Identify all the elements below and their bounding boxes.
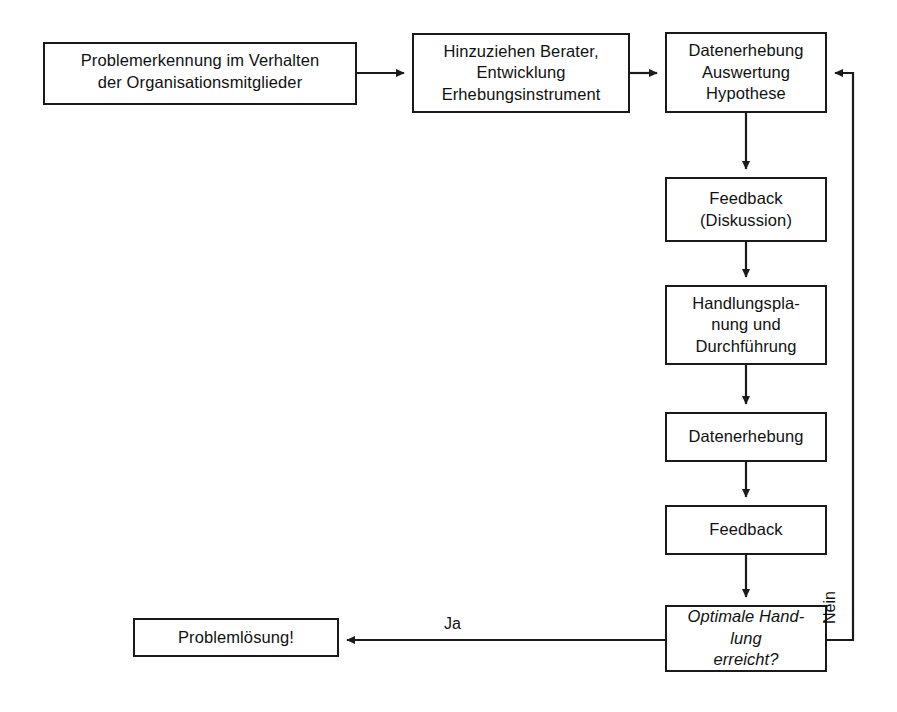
flowchart-canvas: Problemerkennung im Verhalten der Organi… bbox=[0, 0, 897, 712]
node-handlungsplanung-durchfuehrung-label: Handlungspla- nung und Durchführung bbox=[667, 293, 825, 357]
node-hinzuziehen-berater[interactable]: Hinzuziehen Berater, Entwicklung Erhebun… bbox=[412, 33, 630, 113]
node-datenerhebung[interactable]: Datenerhebung bbox=[665, 412, 827, 462]
node-handlungsplanung-durchfuehrung[interactable]: Handlungspla- nung und Durchführung bbox=[665, 285, 827, 365]
node-feedback-diskussion[interactable]: Feedback (Diskussion) bbox=[665, 177, 827, 242]
node-datenerhebung-auswertung-hypothese-label: Datenerhebung Auswertung Hypothese bbox=[667, 40, 825, 104]
node-feedback-label: Feedback bbox=[667, 519, 825, 540]
node-problemerkennung[interactable]: Problemerkennung im Verhalten der Organi… bbox=[43, 42, 357, 105]
connector-optimale-handlung-to-datenerhebung-auswertung-nein bbox=[827, 73, 853, 640]
node-optimale-handlung-erreicht[interactable]: Optimale Hand- lung erreicht? bbox=[665, 605, 827, 672]
node-datenerhebung-auswertung-hypothese[interactable]: Datenerhebung Auswertung Hypothese bbox=[665, 32, 827, 113]
node-optimale-handlung-erreicht-label: Optimale Hand- lung erreicht? bbox=[667, 606, 825, 670]
edge-label-ja: Ja bbox=[444, 616, 461, 632]
node-feedback[interactable]: Feedback bbox=[665, 505, 827, 555]
node-problemloesung[interactable]: Problemlösung! bbox=[133, 618, 339, 657]
node-datenerhebung-label: Datenerhebung bbox=[667, 426, 825, 447]
edge-label-nein: Nein bbox=[822, 591, 838, 624]
node-feedback-diskussion-label: Feedback (Diskussion) bbox=[667, 188, 825, 231]
node-problemloesung-label: Problemlösung! bbox=[135, 627, 337, 648]
node-hinzuziehen-berater-label: Hinzuziehen Berater, Entwicklung Erhebun… bbox=[414, 41, 628, 105]
node-problemerkennung-label: Problemerkennung im Verhalten der Organi… bbox=[45, 50, 355, 93]
